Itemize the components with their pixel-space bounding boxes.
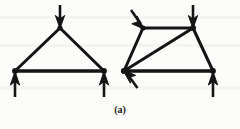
trapezoidal-truss-group [121, 5, 218, 97]
top-right-load-arrow [188, 5, 197, 29]
triangular-truss-joints [12, 25, 107, 74]
triangular-truss-forces [10, 5, 108, 97]
left-reaction-arrow [10, 72, 19, 98]
member-left-chord [15, 28, 60, 71]
top-left-load-arrowhead [132, 16, 145, 29]
member-right-chord [193, 28, 213, 71]
apex-load-arrow [55, 5, 64, 29]
trapezoidal-truss-members [124, 28, 213, 71]
figure-container: (a) [0, 0, 240, 129]
right-reaction-arrow [208, 72, 217, 98]
figure-caption: (a) [0, 104, 240, 116]
member-right-chord [60, 28, 104, 71]
triangular-truss-group [10, 5, 108, 97]
top-left-load-arrow [131, 10, 145, 29]
triangular-truss-members [15, 28, 104, 71]
right-reaction-arrow [99, 72, 108, 98]
